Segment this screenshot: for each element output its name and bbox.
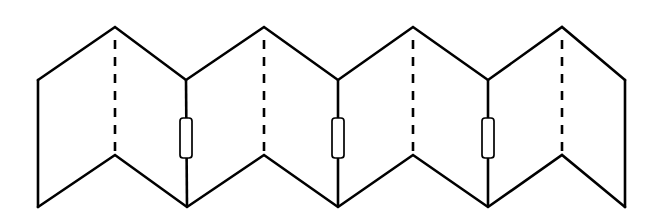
figure-container	[0, 0, 661, 222]
connector-clip-2	[332, 118, 344, 158]
zigzag-outline	[38, 27, 625, 207]
connector-clip-1	[180, 118, 192, 158]
zigzag-diagram	[0, 0, 661, 222]
connector-clip-group	[180, 118, 494, 158]
connector-clip-3	[482, 118, 494, 158]
top-sawtooth-path	[38, 27, 625, 80]
bottom-sawtooth-path	[38, 155, 625, 207]
